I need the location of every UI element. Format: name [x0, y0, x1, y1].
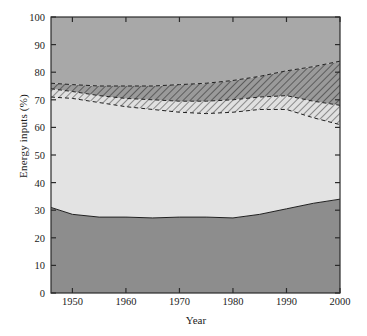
chart-figure: Energy inputs (%) Year 01020304050607080…	[0, 0, 367, 336]
stacked-area-plot	[0, 0, 367, 336]
